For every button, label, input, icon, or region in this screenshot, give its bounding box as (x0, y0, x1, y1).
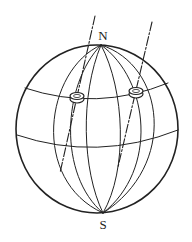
meridian-right (101, 45, 141, 213)
globe-diagram: N S (0, 0, 192, 242)
meridian-far-left (54, 45, 103, 213)
meridian-far-right (101, 45, 154, 213)
south-label: S (99, 217, 106, 232)
north-label: N (98, 28, 108, 43)
meridian-center-right (101, 45, 120, 213)
rotor-left (70, 93, 84, 104)
meridian-center-left (86, 45, 103, 213)
rotor-right (129, 88, 143, 99)
meridian-left (70, 45, 103, 213)
